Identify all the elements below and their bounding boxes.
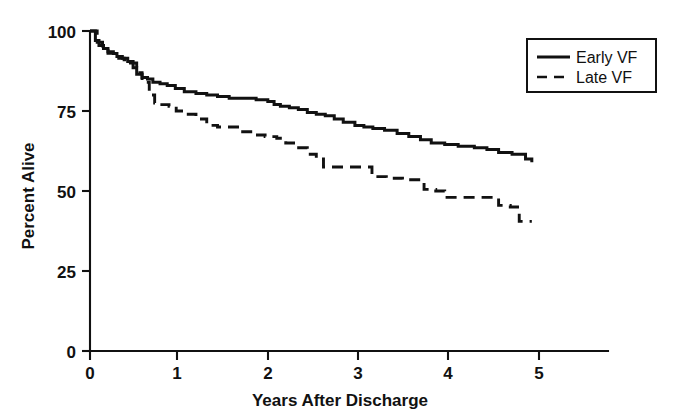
y-tick-label-25: 25 xyxy=(57,263,76,282)
kaplan-meier-survival-figure: Percent Alive Years After Discharge 100 … xyxy=(0,0,687,419)
y-tick-label-50: 50 xyxy=(57,183,76,202)
y-axis-tick-labels: 100 75 50 25 0 xyxy=(48,23,76,362)
legend-label-early-vf: Early VF xyxy=(576,49,638,66)
x-tick-label-3: 3 xyxy=(353,364,362,383)
x-axis-title: Years After Discharge xyxy=(252,391,428,410)
x-axis-tick-labels: 0 1 2 3 4 5 xyxy=(85,364,543,383)
x-tick-label-4: 4 xyxy=(443,364,453,383)
chart-legend: Early VF Late VF xyxy=(527,39,656,92)
y-axis-title: Percent Alive xyxy=(19,142,38,249)
y-tick-label-100: 100 xyxy=(48,23,76,42)
chart-canvas: Percent Alive Years After Discharge 100 … xyxy=(0,0,687,419)
y-tick-label-0: 0 xyxy=(67,343,76,362)
survival-curve-late-vf xyxy=(90,31,532,221)
legend-label-late-vf: Late VF xyxy=(576,69,632,86)
x-axis-ticks xyxy=(90,351,539,360)
survival-curve-early-vf xyxy=(90,31,532,162)
x-tick-label-2: 2 xyxy=(263,364,272,383)
y-tick-label-75: 75 xyxy=(57,103,76,122)
x-tick-label-0: 0 xyxy=(85,364,94,383)
x-tick-label-1: 1 xyxy=(172,364,181,383)
y-axis-ticks xyxy=(82,31,90,351)
x-tick-label-5: 5 xyxy=(534,364,543,383)
